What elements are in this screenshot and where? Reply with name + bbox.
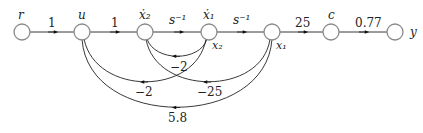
gain-x2dot-x1dot: s⁻¹: [169, 13, 186, 27]
node-r: [14, 24, 30, 40]
label-c: c: [328, 8, 335, 22]
signal-flow-graph: r u ẋ₂ ẋ₁ x₂ x₁ c y 1 1 s⁻¹ s⁻¹ 25 0.77 …: [0, 0, 423, 133]
gain-x1-x2dot: −25: [197, 85, 222, 99]
node-x1dot: [201, 24, 217, 40]
node-c: [323, 24, 339, 40]
label-x1dot: ẋ₁: [203, 8, 215, 22]
node-y: [387, 24, 403, 40]
node-u: [74, 24, 90, 40]
label-u: u: [78, 8, 86, 22]
gain-x1-c: 25: [295, 16, 310, 30]
branch-x1dot-x2dot: [147, 39, 207, 56]
label-x2: x₂: [212, 39, 223, 52]
node-x1: [264, 24, 280, 40]
gain-r-u: 1: [48, 16, 56, 30]
gain-c-y: 0.77: [355, 16, 382, 30]
branch-x1-x2dot: [146, 39, 270, 82]
gain-x1dot-x1: s⁻¹: [233, 13, 250, 27]
gain-x1-u: 5.8: [168, 111, 187, 125]
label-x2dot: ẋ₂: [139, 8, 151, 22]
gain-x1dot-x2dot: −2: [170, 60, 188, 74]
node-x2dot: [137, 24, 153, 40]
label-y: y: [409, 25, 417, 39]
label-r: r: [18, 8, 25, 22]
label-x1: x₁: [276, 39, 287, 52]
gain-x1dot-u: −2: [135, 85, 153, 99]
gain-u-x2dot: 1: [111, 16, 119, 30]
